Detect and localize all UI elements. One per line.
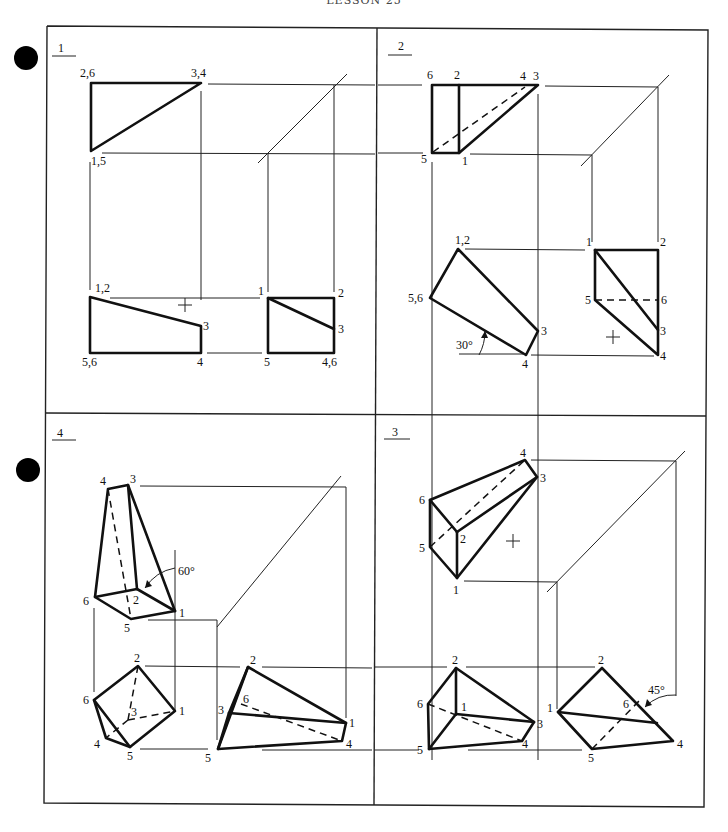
vertex-label: 6 [243, 692, 249, 706]
vertex-label: 4,6 [322, 355, 337, 369]
vertex-label: 4 [100, 474, 106, 488]
vertex-label: 1 [462, 154, 468, 168]
vertex-label: 1 [258, 284, 264, 298]
vertex-label: 3 [537, 717, 543, 731]
vertex-label: 5 [124, 621, 130, 635]
vertex-label: 4 [522, 357, 528, 371]
vertex-label: 5,6 [82, 355, 97, 369]
vertex-label: 3 [533, 69, 539, 83]
vertex-label: 1,5 [91, 154, 106, 168]
vertex-label: 1 [461, 700, 467, 714]
vertex-label: 3 [338, 322, 344, 336]
panel-2: 2 [378, 39, 669, 760]
vertex-label: 5 [127, 749, 133, 763]
vertex-label: 1 [586, 235, 592, 249]
vertex-label: 6 [427, 68, 433, 82]
panel-number: 4 [57, 426, 63, 440]
vertex-label: 5 [585, 293, 591, 307]
vertex-label: 1 [179, 704, 185, 718]
vertex-label: 4 [660, 349, 666, 363]
panel-frame [44, 26, 708, 807]
vertex-label: 2 [598, 653, 604, 667]
vertex-label: 6 [661, 293, 667, 307]
vertex-label: 5 [264, 355, 270, 369]
drawing-sheet: LESSON 25 1 [0, 0, 728, 832]
vertex-label: 5 [421, 152, 427, 166]
vertex-label: 2 [250, 653, 256, 667]
panel-1: 1 2,6 3,4 1,5 1,2 [52, 41, 375, 369]
vertex-label: 6 [419, 493, 425, 507]
vertex-label: 3 [540, 471, 546, 485]
vertex-label: 2 [460, 532, 466, 546]
vertex-label: 5 [419, 541, 425, 555]
vertex-label: 3 [541, 324, 547, 338]
vertex-label: 2 [660, 235, 666, 249]
panel-number: 1 [58, 41, 64, 55]
vertex-label: 4 [197, 355, 203, 369]
vertex-label: 4 [94, 737, 100, 751]
panel-4: 4 [52, 426, 372, 765]
angle-label: 45° [648, 683, 665, 697]
panel-number: 2 [398, 39, 404, 53]
vertex-label: 1,2 [95, 281, 110, 295]
vertex-label: 5,6 [408, 291, 423, 305]
vertex-label: 2 [454, 68, 460, 82]
vertex-label: 3 [131, 705, 137, 719]
vertex-label: 3 [203, 319, 209, 333]
vertex-label: 6 [417, 697, 423, 711]
vertex-label: 1 [349, 716, 355, 730]
angle-label: 30° [456, 338, 473, 352]
vertex-label: 4 [520, 69, 526, 83]
vertex-label: 1 [547, 701, 553, 715]
vertex-label: 5 [588, 751, 594, 765]
vertex-label: 3 [218, 703, 224, 717]
vertex-label: 1 [179, 606, 185, 620]
vertex-label: 4 [520, 446, 526, 460]
vertex-label: 3,4 [191, 66, 206, 80]
vertex-label: 2 [338, 286, 344, 300]
vertex-label: 5 [205, 751, 211, 765]
vertex-label: 1,2 [455, 233, 470, 247]
vertex-label: 3 [130, 472, 136, 486]
vertex-label: 2 [452, 653, 458, 667]
angle-label: 60° [178, 564, 195, 578]
vertex-label: 4 [522, 737, 528, 751]
vertex-label: 5 [417, 743, 423, 757]
vertex-label: 1 [453, 583, 459, 597]
vertex-label: 6 [623, 697, 629, 711]
vertex-label: 4 [346, 737, 352, 751]
vertex-label: 2 [133, 593, 139, 607]
panel-3: 3 [374, 425, 685, 765]
panel-number: 3 [392, 425, 398, 439]
vertex-label: 2 [134, 651, 140, 665]
vertex-label: 2,6 [80, 66, 95, 80]
vertex-label: 6 [83, 594, 89, 608]
vertex-label: 4 [677, 737, 683, 751]
vertex-label: 3 [660, 324, 666, 338]
vertex-label: 6 [83, 693, 89, 707]
